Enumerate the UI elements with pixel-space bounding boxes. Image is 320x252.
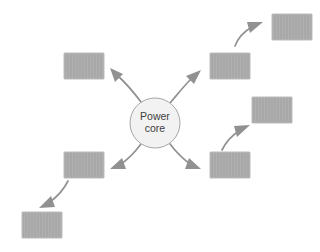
node-mid-right[interactable] [252,97,292,123]
arrow-core-to-upper-right [170,70,201,103]
arrow-lower-right-to-mid-right [222,125,250,150]
power-core-node[interactable]: Power core [130,98,180,148]
power-core-label-line1: Power [140,110,170,122]
arrow-core-to-lower-right [170,144,201,169]
arrow-core-to-lower-left [110,144,141,169]
node-upper-right[interactable] [210,53,250,79]
node-top-right[interactable] [272,14,312,40]
node-bottom-left[interactable] [22,212,62,238]
arrow-upper-right-to-top-right [235,22,263,46]
power-core-diagram: Power core [0,0,320,252]
arrow-lower-left-to-bottom-left [39,181,68,208]
arrow-core-to-upper-left [110,68,141,102]
node-lower-left[interactable] [64,152,104,178]
power-core-label-line2: core [145,122,166,134]
diagram-canvas: Power core [0,0,320,252]
node-upper-left[interactable] [64,53,104,79]
node-lower-right[interactable] [210,152,250,178]
